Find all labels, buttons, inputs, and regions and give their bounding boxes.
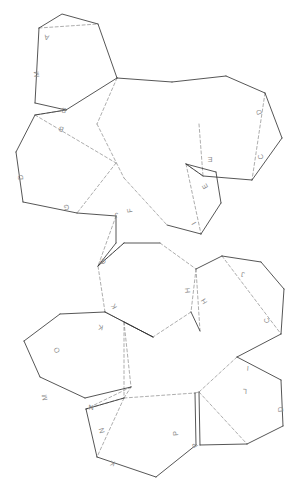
net-face-lower-left-hexagon: [24, 312, 131, 398]
edge-label-l-19: L: [243, 387, 248, 396]
edge-label-d-4: D: [16, 174, 25, 180]
net-svg-canvas: AMBBDGDCEEJFIGHHJCILDKKOMNNKPP: [0, 0, 306, 502]
edge-label-f-11: F: [125, 207, 135, 213]
net-face-top-pentagon: [35, 14, 117, 110]
edge-label-n-25: N: [88, 403, 94, 412]
edge-label-m-1: M: [32, 71, 42, 78]
net-face-bottom-right-pentagon: [199, 357, 283, 445]
edge-label-h-14: H: [183, 287, 193, 293]
net-face-lower-right-hexagon: [196, 256, 284, 357]
edge-label-j-10: J: [114, 211, 119, 220]
edge-label-g-5: G: [63, 203, 70, 212]
edge-label-p-28: P: [171, 430, 180, 436]
edge-label-d-20: D: [276, 406, 286, 412]
edge-label-m-24: M: [40, 394, 50, 402]
polyhedron-net-figure: AMBBDGDCEEJFIGHHJCILDKKOMNNKPP: [0, 0, 306, 502]
edge-label-e-8: E: [208, 155, 213, 164]
cut-line: [77, 213, 116, 216]
fold-line: [195, 392, 199, 393]
